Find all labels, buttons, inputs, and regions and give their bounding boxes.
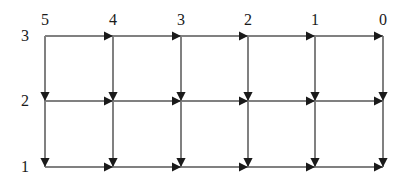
lattice-graph-svg	[0, 0, 405, 184]
arrowhead-right-r3-c3	[172, 31, 181, 40]
arrowhead-right-r3-c1	[306, 31, 315, 40]
row-label-1: 1	[21, 159, 29, 175]
arrowhead-right-r3-c4	[104, 31, 113, 40]
arrowhead-down-c5-r2	[40, 92, 49, 101]
column-label-4: 4	[109, 12, 117, 28]
arrowhead-down-c5-r1	[40, 158, 49, 167]
column-label-3: 3	[177, 12, 185, 28]
column-label-0: 0	[379, 12, 387, 28]
arrowhead-right-r3-c0	[374, 31, 383, 40]
edges-layer	[45, 36, 383, 167]
row-label-3: 3	[21, 28, 29, 44]
arrowhead-right-r3-c2	[239, 31, 248, 40]
column-label-5: 5	[41, 12, 49, 28]
column-label-1: 1	[311, 12, 319, 28]
row-label-2: 2	[21, 93, 29, 109]
column-label-2: 2	[244, 12, 252, 28]
lattice-diagram: 543210 321	[0, 0, 405, 184]
